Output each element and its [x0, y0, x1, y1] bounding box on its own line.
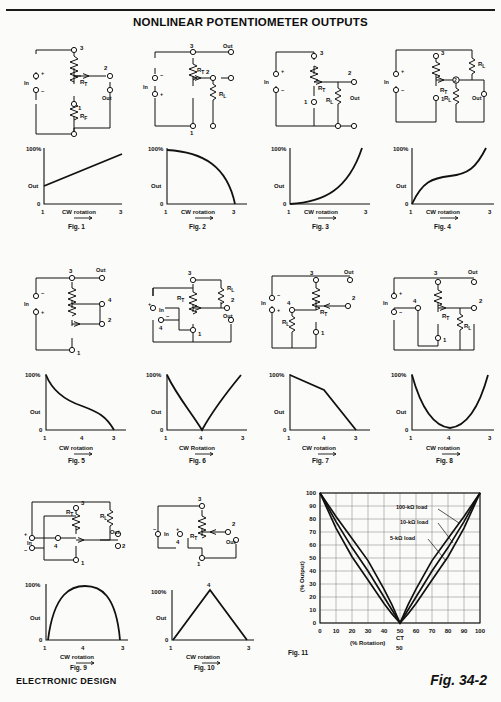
output-label: Out: [223, 43, 233, 49]
x-tick-4: 4: [81, 645, 85, 651]
polarity-minus: −: [41, 88, 44, 94]
terminal-3-label: 3: [434, 270, 438, 276]
input-label: In: [159, 307, 165, 313]
y-tick-30: 30: [309, 581, 316, 587]
y-tick-10: 10: [309, 607, 316, 613]
terminal-1-label: 1: [190, 130, 194, 136]
x-tick-3: 3: [354, 435, 358, 441]
figure-block-fig6: 3 2 1 4 + − In Out RT RL 100% Out 0 1 4 …: [135, 262, 253, 472]
y-tick-70: 70: [309, 529, 316, 535]
x-tick-1: 1: [409, 209, 413, 215]
terminal-1-label: 1: [197, 561, 201, 567]
curve-fig6: [167, 375, 241, 430]
figure-block-fig2: 3 2 1 − + In Out RT RL 100% Out 0 1 3 CW…: [135, 42, 253, 242]
y-axis-out-label: Out: [28, 183, 38, 189]
figure-block-fig1: 3 2 1 + − In Out RT RF 100% Out 0 1 3 CW…: [14, 42, 132, 242]
output-label: Out: [350, 95, 360, 101]
schematic-fig3: 3 2 1 + − In Out RT RL: [258, 42, 376, 142]
terminal-4-label: 4: [176, 539, 180, 545]
x-tick-1: 1: [409, 435, 413, 441]
x-tick-3: 3: [488, 209, 492, 215]
x-tick-90: 90: [461, 628, 468, 634]
y-axis-top-label: 100%: [391, 372, 407, 378]
x-tick-50: 50: [397, 628, 404, 634]
x-axis-label: CW rotation: [59, 445, 93, 451]
figure-block-fig9: 3 2 1 4 + − In Out RT RL 100% Out 0 1 4 …: [14, 490, 134, 670]
output-label: Out: [223, 313, 233, 319]
y-axis-top-label: 100%: [26, 146, 42, 152]
schematic-fig4: 3 2 1 + − In Out RT RL RL: [380, 42, 500, 142]
resistor-rl-label: RL: [326, 97, 333, 105]
input-label: In: [27, 540, 33, 546]
x-tick-3: 3: [364, 209, 368, 215]
y-axis-zero-label: 0: [165, 637, 169, 643]
x-tick-3: 3: [247, 645, 251, 651]
x-axis-label: CW rotation: [304, 209, 338, 215]
center-tap-value: 50: [396, 645, 403, 651]
terminal-2-label: 2: [232, 521, 236, 527]
resistor-rl-label: RL: [219, 91, 226, 99]
y-tick-80: 80: [309, 516, 316, 522]
terminal-4-label: 4: [413, 298, 417, 304]
plot-fig8: 100% Out 0 1 4 3 CW rotation Fig. 8: [388, 368, 500, 464]
figure-caption: Fig. 3: [312, 223, 329, 231]
y-tick-100: 100: [306, 490, 317, 496]
resistor-rl-label: RL: [100, 513, 107, 521]
figure-caption: Fig. 1: [68, 223, 85, 231]
schematic-fig5: 3 4 2 1 − + In Out: [14, 262, 132, 370]
plot-fig5: 100% Out 0 1 4 3 CW rotation Fig. 5: [22, 368, 132, 464]
x-tick-30: 30: [365, 628, 372, 634]
figure-block-fig10: 3 2 1 4 − + In Out RT 100% Out 0 1 4 3 C: [140, 490, 260, 670]
y-tick-40: 40: [309, 568, 316, 574]
polarity-minus: −: [24, 547, 27, 553]
plot-fig10: 100% Out 0 1 4 3 CW rotation Fig. 10: [148, 578, 260, 670]
x-tick-3: 3: [119, 209, 123, 215]
output-label: Out: [472, 95, 482, 101]
page-title: NONLINEAR POTENTIOMETER OUTPUTS: [0, 16, 501, 28]
input-label: In: [24, 80, 30, 86]
terminal-3-label: 3: [69, 268, 73, 274]
polarity-plus: +: [41, 70, 44, 76]
direction-arrow-icon: [442, 452, 460, 455]
schematic-fig9: 3 2 1 4 + − In Out RT RL: [14, 490, 134, 580]
y-axis-zero-label: 0: [160, 427, 164, 433]
curve-fig2: [167, 150, 235, 204]
terminal-1-label: 1: [78, 105, 82, 111]
y-axis-zero-label: 0: [39, 427, 43, 433]
terminal-3-label: 3: [320, 50, 324, 56]
resistor-rt-label: RT: [320, 309, 327, 317]
resistor-rt-label: RT: [442, 313, 449, 321]
polarity-plus: +: [281, 68, 284, 74]
terminal-2-label: 2: [206, 69, 210, 75]
terminal-1-label: 1: [77, 350, 81, 356]
terminal-3-label: 3: [190, 43, 194, 49]
x-tick-4: 4: [447, 435, 451, 441]
x-tick-40: 40: [381, 628, 388, 634]
legend-entry-2: 5-kΩ load: [390, 535, 415, 541]
chart-y-tick-labels: 0102030405060708090100: [306, 490, 317, 626]
x-tick-1: 1: [41, 209, 45, 215]
plot-fig9: 100% Out 0 1 4 3 CW rotation Fig. 9: [22, 578, 134, 670]
schematic-fig7: 3 2 1 4 − + In Out RT RL: [258, 262, 376, 370]
direction-arrow-icon: [440, 216, 458, 219]
polarity-minus: −: [401, 87, 404, 93]
x-tick-70: 70: [429, 628, 436, 634]
curve-fig9: [48, 586, 120, 640]
y-axis-top-label: 100%: [269, 372, 285, 378]
x-tick-1: 1: [43, 645, 47, 651]
figure-block-fig8: 3 2 1 4 + − In Out RT RL 100% Out 0 1 4 …: [380, 262, 500, 472]
publication-name: ELECTRONIC DESIGN: [16, 676, 117, 686]
figure-caption: Fig. 9: [70, 664, 87, 672]
schematic-fig6: 3 2 1 4 + − In Out RT RL: [135, 262, 253, 370]
terminal-1-label: 1: [198, 331, 202, 337]
terminal-1-label: 1: [304, 99, 308, 105]
x-tick-3: 3: [241, 435, 245, 441]
center-tap-label: CT: [396, 635, 404, 641]
y-axis-zero-label: 0: [283, 427, 287, 433]
terminal-3-label: 3: [198, 496, 202, 502]
y-axis-out-label: Out: [274, 409, 284, 415]
y-axis-out-label: Out: [30, 615, 40, 621]
resistor-rl-mid-label: RL: [444, 95, 451, 103]
polarity-plus: +: [401, 68, 404, 74]
schematic-fig1: 3 2 1 + − In Out RT RF: [14, 42, 132, 142]
